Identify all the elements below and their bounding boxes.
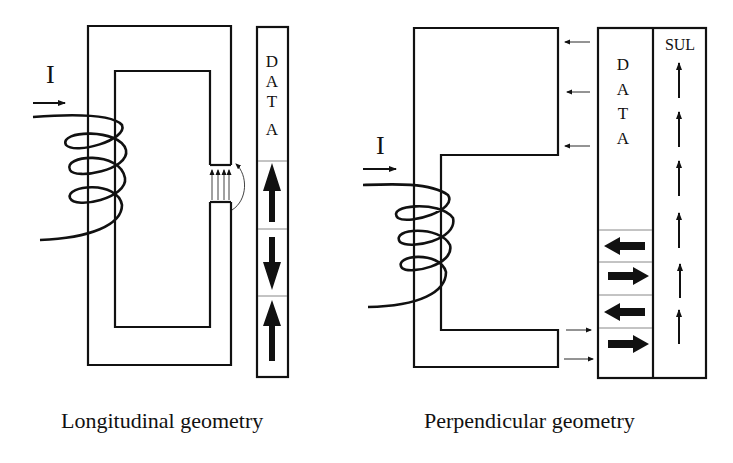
perpendicular-caption: Perpendicular geometry xyxy=(424,408,635,434)
bit-up-arrow-icon xyxy=(263,300,281,361)
svg-text:A: A xyxy=(617,80,630,99)
sul-label: SUL xyxy=(665,36,695,53)
media-label: D A T A xyxy=(617,55,630,148)
perpendicular-head xyxy=(414,28,558,367)
svg-text:D: D xyxy=(617,55,629,74)
bit-left-arrow-icon xyxy=(604,237,645,255)
media-label: D A T A xyxy=(266,52,279,139)
svg-text:A: A xyxy=(266,72,279,91)
current-indicator: I xyxy=(363,131,396,169)
svg-text:A: A xyxy=(266,120,279,139)
svg-text:T: T xyxy=(267,92,278,111)
bit-down-arrow-icon xyxy=(263,237,281,290)
perpendicular-media: D A T A SUL xyxy=(598,28,706,378)
longitudinal-media: D A T A xyxy=(257,27,288,377)
svg-text:D: D xyxy=(266,52,278,71)
bit-up-arrow-icon xyxy=(263,163,281,222)
flux-arrows-icon xyxy=(564,42,593,359)
gap-field-lines-icon xyxy=(212,164,245,210)
svg-text:A: A xyxy=(617,129,630,148)
diagram-canvas: I D A T A I xyxy=(0,0,733,463)
bit-arrows xyxy=(263,163,281,361)
bit-right-arrow-icon xyxy=(608,335,649,353)
bit-right-arrow-icon xyxy=(608,267,649,285)
svg-text:I: I xyxy=(46,60,55,89)
coil-icon xyxy=(33,115,126,240)
bit-left-arrow-icon xyxy=(604,303,645,321)
current-indicator: I xyxy=(33,60,65,103)
coil-icon xyxy=(363,184,453,307)
svg-text:I: I xyxy=(376,131,385,160)
sul-arrows xyxy=(679,63,680,344)
svg-text:T: T xyxy=(618,104,629,123)
longitudinal-caption: Longitudinal geometry xyxy=(61,408,263,434)
recording-geometry-diagram: I D A T A I xyxy=(0,0,733,463)
